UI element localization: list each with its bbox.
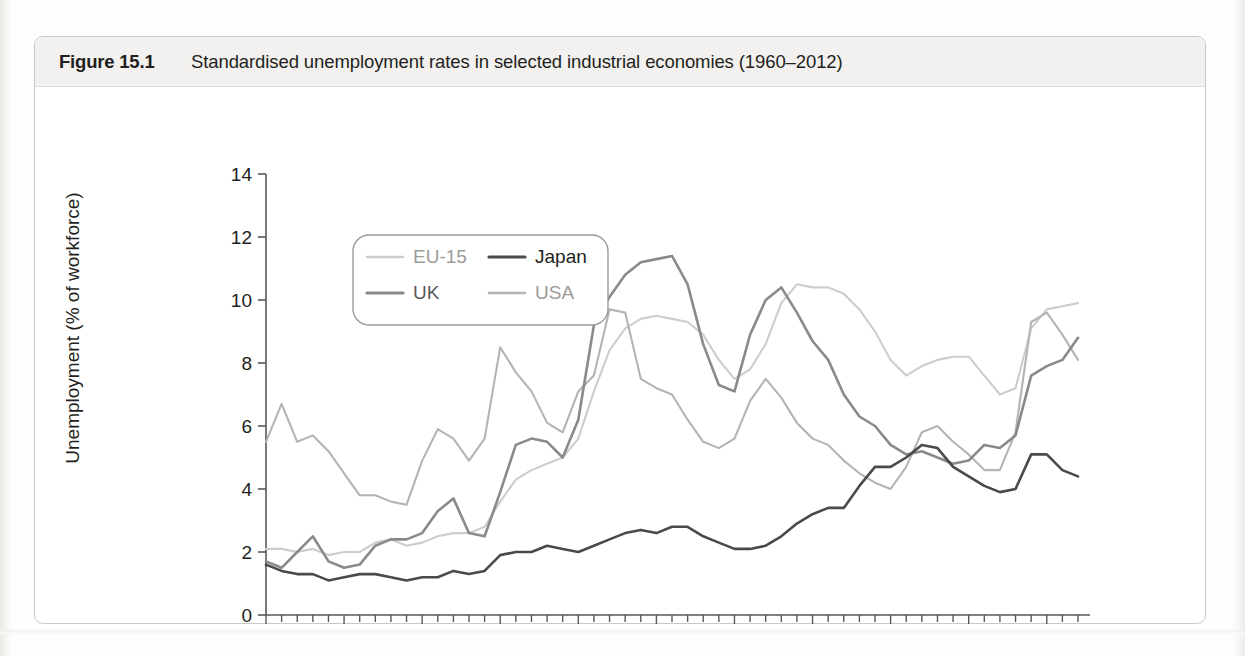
page-title: Standardised unemployment rates in selec…	[191, 51, 843, 73]
y-tick-label: 8	[241, 353, 252, 374]
y-tick-label: 10	[231, 290, 252, 311]
y-tick-label: 12	[231, 227, 252, 248]
page-edge-shadow-left	[0, 0, 12, 656]
figure-card: Figure 15.1 Standardised unemployment ra…	[34, 36, 1206, 624]
y-tick-label: 4	[241, 479, 252, 500]
y-tick-label: 14	[231, 164, 253, 185]
legend-label-uk: UK	[413, 282, 440, 303]
legend-label-japan: Japan	[535, 246, 587, 267]
y-tick-label: 6	[241, 416, 252, 437]
y-tick-label: 2	[241, 542, 252, 563]
figure-number: Figure 15.1	[59, 51, 154, 73]
page-canvas: Figure 15.1 Standardised unemployment ra…	[0, 0, 1245, 656]
y-tick-label: 0	[241, 605, 252, 624]
page-edge-shadow-right	[1233, 0, 1245, 656]
series-line-usa	[266, 309, 1078, 504]
page-bottom-shadow	[0, 630, 1245, 634]
line-chart: 0246810121419601965197019751980198519901…	[35, 87, 1205, 624]
legend-label-eu-15: EU-15	[413, 246, 467, 267]
plot-area: Unemployment (% of workforce) 0246810121…	[35, 87, 1205, 624]
legend-label-usa: USA	[535, 282, 574, 303]
series-line-japan	[266, 445, 1078, 581]
